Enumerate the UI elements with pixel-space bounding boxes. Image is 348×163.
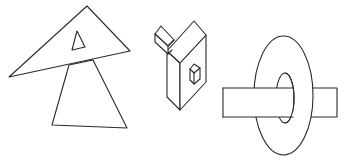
bar-front-segment: [223, 88, 293, 117]
triangles-figure: [9, 6, 130, 128]
figure-svg: [0, 0, 348, 163]
figure-canvas: Three line-drawn figures on white backgr…: [0, 0, 348, 163]
ring-and-bar-figure: [223, 36, 337, 155]
lower-triangle: [52, 60, 127, 128]
isometric-block-figure: [155, 21, 206, 110]
